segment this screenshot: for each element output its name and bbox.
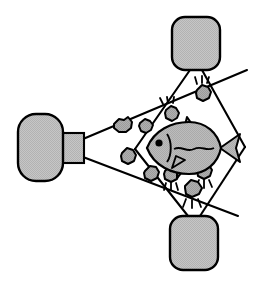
particle-blob (165, 106, 179, 121)
suspended-particle (121, 148, 136, 164)
strobe-top-device[interactable] (172, 17, 220, 70)
diagram-canvas (0, 0, 265, 284)
fish-eye (155, 139, 162, 146)
particle-blob (185, 180, 202, 197)
camera-body (18, 114, 63, 181)
strobe-bottom-body (170, 216, 218, 270)
strobe-bottom-device[interactable] (170, 216, 218, 270)
suspended-particle (139, 119, 153, 133)
particle-blob (196, 85, 211, 101)
underwater-imaging-diagram (0, 0, 265, 284)
strobe-top-body (172, 17, 220, 70)
